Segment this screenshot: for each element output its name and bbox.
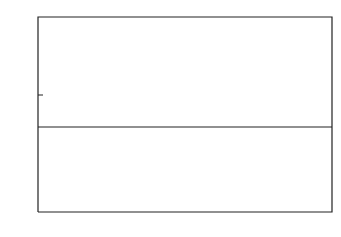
plot-frame [38,17,332,212]
chart-svg [0,0,341,237]
chart-container [0,0,341,237]
